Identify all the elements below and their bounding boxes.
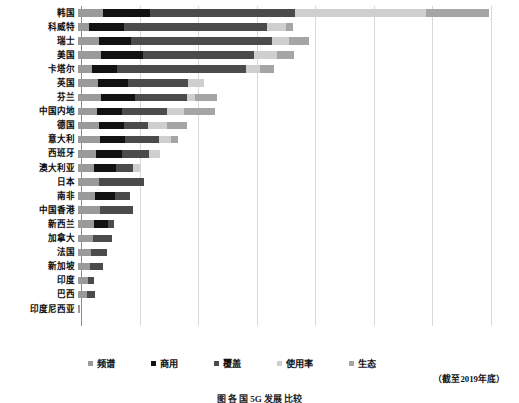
bar-segment-覆盖[interactable] — [93, 235, 112, 243]
stacked-bar[interactable] — [78, 220, 114, 228]
stacked-bar[interactable] — [78, 23, 293, 31]
bar-segment-覆盖[interactable] — [117, 65, 247, 73]
bar-segment-覆盖[interactable] — [88, 277, 94, 285]
bar-segment-覆盖[interactable] — [143, 51, 254, 59]
bar-segment-覆盖[interactable] — [124, 23, 267, 31]
bar-segment-频谱[interactable] — [78, 94, 101, 102]
bar-segment-频谱[interactable] — [78, 164, 94, 172]
bar-segment-使用率[interactable] — [272, 37, 289, 45]
stacked-bar[interactable] — [78, 150, 160, 158]
stacked-bar[interactable] — [78, 164, 140, 172]
bar-segment-生态[interactable] — [277, 51, 293, 59]
bar-segment-覆盖[interactable] — [135, 94, 187, 102]
bar-segment-覆盖[interactable] — [90, 263, 102, 271]
bar-segment-覆盖[interactable] — [91, 249, 107, 257]
bar-segment-商用[interactable] — [95, 192, 116, 200]
bar-segment-使用率[interactable] — [246, 65, 260, 73]
bar-segment-生态[interactable] — [426, 9, 488, 17]
legend-item-商用[interactable]: 商用 — [151, 356, 178, 370]
stacked-bar[interactable] — [78, 51, 294, 59]
bar-segment-商用[interactable] — [89, 23, 123, 31]
bar-segment-频谱[interactable] — [78, 23, 89, 31]
stacked-bar[interactable] — [78, 277, 94, 285]
bar-segment-商用[interactable] — [101, 94, 135, 102]
bar-segment-频谱[interactable] — [78, 122, 99, 130]
bar-segment-覆盖[interactable] — [150, 9, 295, 17]
stacked-bar[interactable] — [78, 291, 95, 299]
bar-segment-使用率[interactable] — [188, 79, 204, 87]
bar-segment-覆盖[interactable] — [115, 192, 130, 200]
stacked-bar[interactable] — [78, 263, 103, 271]
bar-segment-使用率[interactable] — [149, 150, 159, 158]
bar-segment-覆盖[interactable] — [131, 37, 272, 45]
bar-segment-生态[interactable] — [184, 108, 215, 116]
legend-item-频谱[interactable]: 频谱 — [88, 356, 115, 370]
bar-segment-商用[interactable] — [101, 51, 143, 59]
stacked-bar[interactable] — [78, 37, 309, 45]
stacked-bar[interactable] — [78, 122, 187, 130]
bar-segment-商用[interactable] — [94, 164, 115, 172]
bar-segment-频谱[interactable] — [78, 150, 96, 158]
bar-segment-使用率[interactable] — [148, 122, 168, 130]
bar-segment-商用[interactable] — [103, 9, 150, 17]
bar-segment-频谱[interactable] — [78, 305, 80, 313]
legend-item-覆盖[interactable]: 覆盖 — [214, 356, 241, 370]
bar-segment-商用[interactable] — [97, 108, 122, 116]
bar-segment-频谱[interactable] — [78, 220, 94, 228]
stacked-bar[interactable] — [78, 9, 489, 17]
bar-segment-使用率[interactable] — [167, 108, 183, 116]
bar-segment-覆盖[interactable] — [122, 150, 149, 158]
bar-segment-覆盖[interactable] — [100, 206, 133, 214]
bar-segment-商用[interactable] — [94, 220, 108, 228]
stacked-bar[interactable] — [78, 178, 144, 186]
legend-item-使用率[interactable]: 使用率 — [277, 356, 313, 370]
bar-segment-频谱[interactable] — [78, 277, 88, 285]
stacked-bar[interactable] — [78, 305, 80, 313]
bar-segment-频谱[interactable] — [78, 79, 98, 87]
bar-segment-商用[interactable] — [99, 122, 124, 130]
bar-segment-频谱[interactable] — [78, 9, 103, 17]
bar-segment-频谱[interactable] — [78, 291, 87, 299]
stacked-bar[interactable] — [78, 235, 112, 243]
bar-segment-频谱[interactable] — [78, 178, 99, 186]
bar-segment-商用[interactable] — [96, 150, 122, 158]
bar-segment-使用率[interactable] — [159, 136, 171, 144]
bar-segment-使用率[interactable] — [295, 9, 426, 17]
bar-segment-覆盖[interactable] — [99, 178, 144, 186]
bar-segment-频谱[interactable] — [78, 206, 100, 214]
bar-segment-频谱[interactable] — [78, 192, 95, 200]
bar-segment-生态[interactable] — [289, 37, 310, 45]
bar-segment-频谱[interactable] — [78, 108, 97, 116]
legend-item-生态[interactable]: 生态 — [349, 356, 376, 370]
stacked-bar[interactable] — [78, 65, 274, 73]
bar-segment-频谱[interactable] — [78, 51, 101, 59]
bar-segment-覆盖[interactable] — [87, 291, 94, 299]
bar-segment-商用[interactable] — [100, 136, 125, 144]
bar-segment-频谱[interactable] — [78, 136, 100, 144]
bar-segment-使用率[interactable] — [267, 23, 287, 31]
stacked-bar[interactable] — [78, 192, 130, 200]
bar-segment-生态[interactable] — [171, 136, 178, 144]
bar-segment-覆盖[interactable] — [128, 79, 187, 87]
bar-segment-覆盖[interactable] — [122, 108, 167, 116]
bar-segment-覆盖[interactable] — [116, 164, 133, 172]
bar-segment-频谱[interactable] — [78, 263, 90, 271]
bar-segment-覆盖[interactable] — [108, 220, 114, 228]
bar-segment-频谱[interactable] — [78, 37, 99, 45]
stacked-bar[interactable] — [78, 249, 107, 257]
bar-segment-覆盖[interactable] — [124, 122, 148, 130]
bar-segment-频谱[interactable] — [78, 235, 93, 243]
bar-segment-使用率[interactable] — [133, 164, 140, 172]
stacked-bar[interactable] — [78, 206, 133, 214]
bar-segment-使用率[interactable] — [254, 51, 277, 59]
bar-segment-生态[interactable] — [195, 94, 217, 102]
stacked-bar[interactable] — [78, 94, 217, 102]
bar-segment-覆盖[interactable] — [125, 136, 159, 144]
bar-segment-频谱[interactable] — [78, 249, 91, 257]
bar-segment-生态[interactable] — [260, 65, 274, 73]
bar-segment-商用[interactable] — [98, 79, 128, 87]
bar-segment-商用[interactable] — [92, 65, 116, 73]
stacked-bar[interactable] — [78, 108, 215, 116]
bar-segment-商用[interactable] — [99, 37, 131, 45]
bar-segment-生态[interactable] — [286, 23, 293, 31]
